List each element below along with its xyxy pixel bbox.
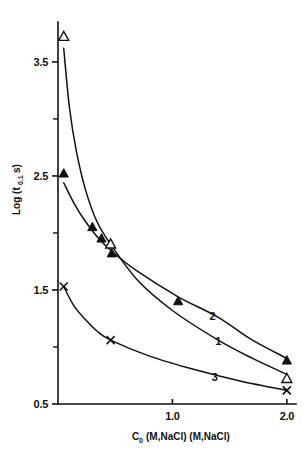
x-tick-label-2.0: 2.0	[280, 410, 295, 422]
y-tick-label-1.5: 1.5	[34, 284, 49, 296]
marker-open-triangle-series1-0	[59, 31, 69, 40]
chart-canvas: 3.52.51.50.5 1.02.0 123 Log (t 0.1 s) C …	[0, 0, 307, 452]
curve-label-3: 3	[212, 371, 218, 383]
data-curves-group	[64, 48, 287, 390]
marker-filled-triangle-series2-0	[59, 169, 68, 177]
marker-cross-series3-1	[107, 336, 115, 344]
y-axis-ticks	[52, 62, 58, 404]
y-axis-tick-labels: 3.52.51.50.5	[34, 56, 49, 410]
y-axis-title: Log (t 0.1 s)	[11, 164, 24, 215]
x-axis-tick-labels: 1.02.0	[165, 410, 294, 422]
x-tick-label-1.0: 1.0	[165, 410, 180, 422]
curve-labels-group: 123	[209, 310, 221, 384]
curve-1	[64, 48, 287, 374]
curve-label-2: 2	[209, 310, 215, 322]
marker-open-triangle-series1-2	[282, 374, 292, 383]
y-axis-title-subscript: 0.1	[17, 175, 24, 185]
marker-cross-series3-0	[60, 283, 68, 291]
curve-label-1: 1	[215, 335, 221, 347]
y-axis-title-main: Log (t	[11, 187, 22, 215]
y-tick-label-3.5: 3.5	[34, 56, 49, 68]
figure-container: 3.52.51.50.5 1.02.0 123 Log (t 0.1 s) C …	[0, 0, 307, 452]
y-axis-title-tail: s)	[11, 164, 22, 173]
x-axis-title-rest: (M,NaCl) (M,NaCl)	[146, 431, 230, 442]
y-tick-label-2.5: 2.5	[34, 170, 49, 182]
y-tick-label-0.5: 0.5	[34, 398, 49, 410]
x-axis-title: C 0 (M,NaCl) (M,NaCl)	[132, 431, 230, 444]
x-axis-title-subscript: 0	[139, 437, 143, 444]
marker-filled-triangle-series2-4	[174, 296, 183, 304]
